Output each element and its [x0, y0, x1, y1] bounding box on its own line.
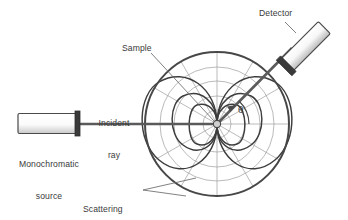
sample-point [213, 120, 220, 127]
monochromatic-source-tube [18, 111, 80, 136]
sample-label: Sample [122, 43, 152, 54]
detector-label: Detector [259, 8, 292, 19]
incident-ray-label-line2: ray [88, 150, 140, 161]
leader-detector [285, 22, 296, 33]
source-label: Monochromatic source [6, 138, 92, 220]
theta-angle-label: θ [238, 105, 243, 116]
scattering-label-line1: Scattering [83, 204, 123, 215]
leader-sample [151, 53, 214, 121]
detector-tube [276, 20, 332, 76]
detector-tube-body [282, 22, 331, 71]
scattering-intensity-label: Scattering intensity,I [83, 183, 123, 220]
incident-ray-label: Incident ray [88, 97, 140, 181]
source-tube-cap [75, 111, 80, 136]
leader-scattering-1 [143, 178, 196, 190]
source-label-line1: Monochromatic [6, 159, 92, 170]
incident-ray-label-line1: Incident [88, 118, 140, 129]
source-label-line2: source [6, 191, 92, 202]
leader-scattering-2 [143, 190, 186, 196]
source-tube-body [18, 114, 76, 134]
figure-canvas: Monochromatic source Incident ray Sample… [0, 0, 348, 220]
